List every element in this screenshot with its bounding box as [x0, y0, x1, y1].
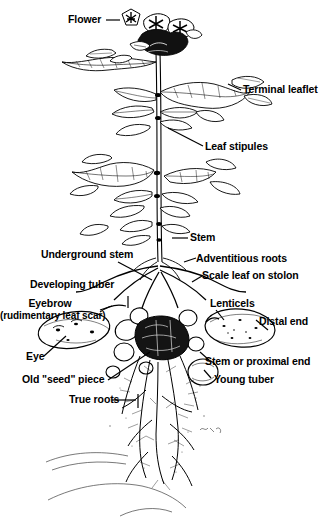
- leader-leaf-stipules: [168, 128, 203, 146]
- potato-plant-diagram: Flower Terminal leaflet Leaf stipules St…: [0, 0, 321, 532]
- soil-contour-art: [46, 453, 186, 516]
- lower-mid-leaf-art: [70, 154, 240, 217]
- label-stem: Stem: [190, 232, 215, 244]
- label-old-seed-piece: Old "seed" piece: [22, 374, 104, 386]
- label-flower: Flower: [68, 14, 101, 26]
- true-roots-art: [122, 356, 198, 486]
- old-seed-piece-art: [135, 316, 189, 360]
- basal-leaf-art: [80, 220, 190, 245]
- leader-adventitious-roots: [184, 258, 196, 262]
- upper-left-leaf-art: [62, 49, 156, 70]
- label-underground-stem: Underground stem: [41, 249, 133, 261]
- label-leaf-stipules: Leaf stipules: [205, 141, 268, 153]
- label-scale-leaf-on-stolon: Scale leaf on stolon: [202, 270, 299, 282]
- label-stem-or-proximal-end: Stem or proximal end: [205, 356, 310, 368]
- label-developing-tuber: Developing tuber: [30, 279, 114, 291]
- label-eye: Eye: [26, 351, 44, 363]
- label-adventitious-roots: Adventitious roots: [196, 253, 287, 265]
- label-distal-end: Distal end: [259, 316, 308, 328]
- flower-cluster-art: [122, 9, 202, 55]
- label-terminal-leaflet: Terminal leaflet: [243, 84, 318, 96]
- label-eyebrow-sub: (rudimentary leaf scar): [0, 310, 100, 322]
- artist-signature-art: [200, 428, 221, 433]
- leader-scale-leaf: [192, 276, 202, 282]
- main-stem-art: [156, 52, 162, 262]
- leader-underground-stem: [118, 262, 152, 280]
- plant-illustration: [0, 0, 321, 532]
- label-true-roots: True roots: [69, 394, 119, 406]
- label-eyebrow: Eyebrow: [0, 298, 100, 310]
- label-young-tuber: Young tuber: [214, 374, 274, 386]
- label-lenticels: Lenticels: [210, 298, 255, 310]
